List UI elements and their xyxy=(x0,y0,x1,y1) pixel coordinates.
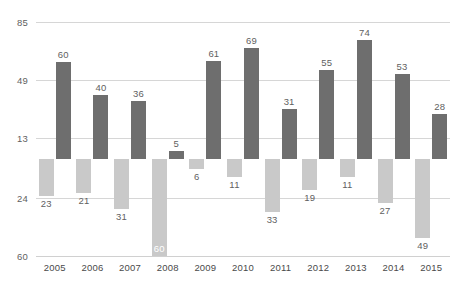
bar-value-label-positive: 36 xyxy=(123,88,154,99)
y-axis-tick-label: 24 xyxy=(0,192,28,203)
bar-positive xyxy=(432,114,447,159)
bar-value-label-negative: 23 xyxy=(31,198,62,209)
bar-value-label-positive: 5 xyxy=(161,138,192,149)
y-axis-tick-label: 13 xyxy=(0,133,28,144)
bar-negative xyxy=(340,159,355,177)
bar-value-label-positive: 60 xyxy=(48,49,79,60)
plot-area: 6023402136315606166911313355197411532728… xyxy=(36,22,450,256)
x-axis-tick-label: 2011 xyxy=(262,262,300,273)
x-axis-tick-label: 2010 xyxy=(224,262,262,273)
x-axis-tick-label: 2013 xyxy=(337,262,375,273)
bar-positive xyxy=(206,61,221,159)
x-axis-tick-label: 2007 xyxy=(111,262,149,273)
bar-value-label-negative: 31 xyxy=(106,211,137,222)
bar-value-label-positive: 55 xyxy=(311,57,342,68)
bar-value-label-negative: 49 xyxy=(407,240,438,251)
x-axis-tick-label: 2005 xyxy=(36,262,74,273)
x-axis-tick-label: 2008 xyxy=(149,262,187,273)
bar-value-label-negative: 11 xyxy=(332,179,363,190)
bar-negative xyxy=(114,159,129,209)
bar-negative xyxy=(265,159,280,212)
bar-positive xyxy=(244,48,259,159)
bar-positive xyxy=(357,40,372,159)
bar-positive xyxy=(56,62,71,159)
bar-value-label-positive: 74 xyxy=(349,27,380,38)
bar-negative xyxy=(189,159,204,169)
bar-positive xyxy=(319,70,334,159)
bar-positive xyxy=(93,95,108,160)
bar-value-label-positive: 69 xyxy=(236,35,267,46)
gridline xyxy=(36,256,450,257)
bar-negative xyxy=(378,159,393,203)
bar-positive xyxy=(282,109,297,159)
bar-value-label-positive: 28 xyxy=(424,101,455,112)
bar-value-label-positive: 31 xyxy=(274,96,305,107)
bar-value-label-negative: 27 xyxy=(370,205,401,216)
bar-negative xyxy=(415,159,430,238)
bar-value-label-positive: 61 xyxy=(198,48,229,59)
y-axis-tick-label: 60 xyxy=(0,251,28,262)
x-axis-tick-label: 2009 xyxy=(187,262,225,273)
x-axis: 2005200620072008200920102011201220132014… xyxy=(36,262,450,282)
bar-value-label-negative-inside: 60 xyxy=(144,243,175,254)
bar-chart: 8549132460 60234021363156061669113133551… xyxy=(0,0,455,289)
bar-value-label-positive: 53 xyxy=(387,61,418,72)
bar-value-label-negative: 21 xyxy=(68,195,99,206)
bar-value-label-negative: 19 xyxy=(294,192,325,203)
bar-value-label-negative: 6 xyxy=(181,171,212,182)
bar-value-label-negative: 33 xyxy=(257,214,288,225)
x-axis-tick-label: 2014 xyxy=(375,262,413,273)
bar-value-label-negative: 11 xyxy=(219,179,250,190)
y-axis-tick-label: 85 xyxy=(0,17,28,28)
x-axis-tick-label: 2015 xyxy=(412,262,450,273)
bar-negative xyxy=(302,159,317,190)
gridline xyxy=(36,22,450,23)
bar-negative xyxy=(39,159,54,196)
bar-negative xyxy=(76,159,91,193)
bar-positive xyxy=(395,74,410,160)
x-axis-tick-label: 2012 xyxy=(299,262,337,273)
bar-negative xyxy=(152,159,167,256)
bar-positive xyxy=(131,101,146,159)
x-axis-tick-label: 2006 xyxy=(74,262,112,273)
bar-negative xyxy=(227,159,242,177)
y-axis-tick-label: 49 xyxy=(0,75,28,86)
bar-value-label-positive: 40 xyxy=(85,82,116,93)
bar-positive xyxy=(169,151,184,159)
